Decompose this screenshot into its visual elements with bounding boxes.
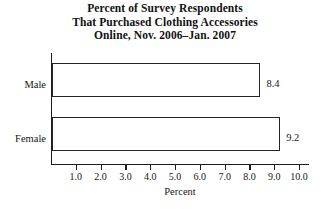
x-tick-mark [101, 165, 102, 170]
x-tick-mark [76, 165, 77, 170]
x-tick-label: 9.0 [268, 171, 281, 182]
plot-area: 8.4 9.2 1.02.03.04.05.06.07.08.09.010.0 [51, 53, 309, 165]
x-tick-label: 1.0 [70, 171, 83, 182]
x-axis-title: Percent [51, 186, 309, 198]
x-tick-mark [274, 165, 275, 170]
x-tick-label: 7.0 [218, 171, 231, 182]
x-tick-mark [299, 165, 300, 170]
chart-title: Percent of Survey Respondents That Purch… [0, 2, 330, 43]
x-tick-label: 3.0 [119, 171, 132, 182]
x-tick-label: 6.0 [194, 171, 207, 182]
x-axis-line [51, 164, 309, 165]
x-tick-mark [200, 165, 201, 170]
x-tick-label: 8.0 [243, 171, 256, 182]
category-label-female: Female [0, 133, 46, 145]
bar-value-male: 8.4 [266, 78, 279, 90]
x-tick-label: 2.0 [94, 171, 107, 182]
chart-title-line-1: Percent of Survey Respondents [0, 2, 330, 16]
x-tick-mark [175, 165, 176, 170]
x-tick-label: 4.0 [144, 171, 157, 182]
category-label-male: Male [0, 79, 46, 91]
x-tick-mark [150, 165, 151, 170]
x-tick-label: 5.0 [169, 171, 182, 182]
bar-male [52, 63, 260, 97]
chart-title-line-3: Online, Nov. 2006–Jan. 2007 [0, 29, 330, 43]
x-tick-mark [125, 165, 126, 170]
x-tick-mark [249, 165, 250, 170]
x-tick-label: 10.0 [290, 171, 308, 182]
bar-chart-figure: Percent of Survey Respondents That Purch… [0, 0, 330, 209]
chart-title-line-2: That Purchased Clothing Accessories [0, 16, 330, 30]
bar-value-female: 9.2 [286, 132, 299, 144]
bar-female [52, 117, 280, 151]
x-tick-mark [225, 165, 226, 170]
